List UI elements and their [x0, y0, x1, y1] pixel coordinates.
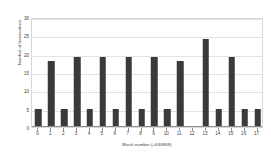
- bar: [164, 109, 171, 127]
- bar: [151, 57, 158, 127]
- bar-slot: [238, 19, 251, 127]
- y-axis-tick-labels: 051015202530: [12, 18, 29, 128]
- bar: [254, 109, 261, 127]
- bar: [177, 61, 184, 127]
- x-tick-label: 8: [139, 131, 142, 136]
- x-axis-baseline: [32, 126, 262, 127]
- y-tick-label: 20: [12, 52, 29, 57]
- bar: [87, 109, 94, 127]
- bar-slot: [45, 19, 58, 127]
- x-tick-label: 14: [215, 131, 220, 136]
- bar: [229, 57, 236, 127]
- y-tick-label: 30: [12, 16, 29, 21]
- x-tick-label: 12: [190, 131, 195, 136]
- bar-slot: [84, 19, 97, 127]
- bar-slot: [200, 19, 213, 127]
- bar-chart: Number of transactions 051015202530 0123…: [0, 0, 271, 155]
- bar-slot: [187, 19, 200, 127]
- bar: [61, 109, 68, 127]
- bar: [48, 61, 55, 127]
- x-tick-label: 5: [101, 131, 104, 136]
- x-tick-label: 3: [75, 131, 78, 136]
- y-tick-label: 0: [12, 126, 29, 131]
- x-tick-label: 9: [152, 131, 155, 136]
- bar: [203, 39, 210, 127]
- y-tick-label: 25: [12, 34, 29, 39]
- bar-slot: [71, 19, 84, 127]
- bar-slot: [161, 19, 174, 127]
- bar-slot: [212, 19, 225, 127]
- bar-slot: [96, 19, 109, 127]
- x-tick-label: 16: [241, 131, 246, 136]
- bar: [35, 109, 42, 127]
- bar-slot: [251, 19, 264, 127]
- x-tick-label: 4: [88, 131, 91, 136]
- x-tick-label: 10: [164, 131, 169, 136]
- bar: [138, 109, 145, 127]
- bar-slot: [32, 19, 45, 127]
- x-tick-label: 17: [254, 131, 259, 136]
- bar: [113, 109, 120, 127]
- x-tick-label: 7: [126, 131, 129, 136]
- x-tick-label: 0: [36, 131, 39, 136]
- bar-slot: [58, 19, 71, 127]
- x-tick-label: 13: [202, 131, 207, 136]
- x-tick-label: 15: [228, 131, 233, 136]
- bar-slot: [109, 19, 122, 127]
- bars-group: [32, 19, 262, 127]
- y-tick-label: 10: [12, 89, 29, 94]
- bar: [74, 57, 81, 127]
- x-axis-tick-labels: 01234567891011121314151617: [31, 128, 263, 138]
- bar: [100, 57, 107, 127]
- x-tick-label: 11: [177, 131, 182, 136]
- x-tick-label: 2: [62, 131, 65, 136]
- y-tick-label: 15: [12, 71, 29, 76]
- plot-area: [31, 18, 263, 128]
- bar-slot: [135, 19, 148, 127]
- bar-slot: [122, 19, 135, 127]
- bar: [216, 109, 223, 127]
- bar-slot: [225, 19, 238, 127]
- bar: [125, 57, 132, 127]
- bar: [241, 109, 248, 127]
- x-tick-label: 6: [113, 131, 116, 136]
- x-axis-title: Block number (+630868): [31, 142, 263, 147]
- y-tick-label: 5: [12, 107, 29, 112]
- x-tick-label: 1: [49, 131, 52, 136]
- bar-slot: [148, 19, 161, 127]
- bar-slot: [174, 19, 187, 127]
